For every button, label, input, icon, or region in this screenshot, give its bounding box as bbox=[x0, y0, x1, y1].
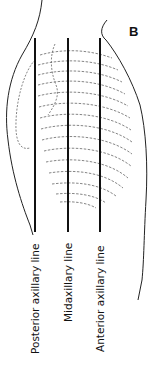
front-outline bbox=[102, 20, 147, 300]
midaxillary-label: Midaxillary line bbox=[62, 243, 74, 322]
anterior-axillary-label: Anterior axillary line bbox=[94, 246, 106, 352]
ribcage bbox=[38, 51, 132, 208]
scapula-outline bbox=[16, 60, 35, 148]
posterior-axillary-label: Posterior axillary line bbox=[29, 244, 41, 354]
axillary-lines-diagram: Posterior axillary line Midaxillary line… bbox=[0, 0, 152, 365]
torso-illustration: Posterior axillary line Midaxillary line… bbox=[0, 0, 152, 365]
back-outline bbox=[7, 0, 42, 235]
panel-label: B bbox=[129, 24, 138, 39]
